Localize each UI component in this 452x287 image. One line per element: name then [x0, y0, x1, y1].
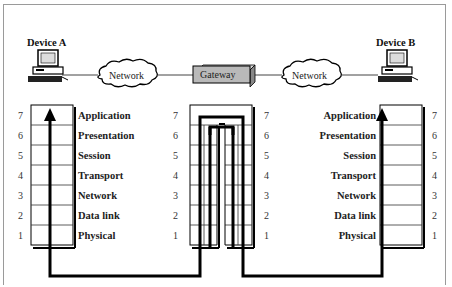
- left-layer-num-2: 2: [18, 210, 23, 221]
- left-layer-name-transport: Transport: [78, 170, 124, 181]
- right-layer-num-4: 4: [432, 170, 437, 181]
- gw-right-num-3: 3: [264, 190, 269, 201]
- right-layer-name-application: Application: [323, 110, 376, 121]
- device-b-label: Device B: [376, 37, 415, 48]
- gw-left-num-5: 5: [173, 150, 178, 161]
- right-layer-num-7: 7: [432, 110, 437, 121]
- device-a-label: Device A: [27, 37, 67, 48]
- right-layer-num-5: 5: [432, 150, 437, 161]
- left-layer-num-7: 7: [18, 110, 23, 121]
- left-layer-name-network: Network: [78, 190, 117, 201]
- gw-right-num-1: 1: [264, 230, 269, 241]
- right-layer-name-physical: Physical: [339, 230, 376, 241]
- gw-left-num-4: 4: [173, 170, 178, 181]
- network-left-label: Network: [109, 70, 144, 81]
- gw-left-num-2: 2: [173, 210, 178, 221]
- left-layer-num-1: 1: [18, 230, 23, 241]
- left-layer-num-5: 5: [18, 150, 23, 161]
- left-layer-name-physical: Physical: [78, 230, 115, 241]
- right-layer-num-2: 2: [432, 210, 437, 221]
- gw-right-num-6: 6: [264, 130, 269, 141]
- left-layer-name-application: Application: [78, 110, 131, 121]
- gw-left-num-3: 3: [173, 190, 178, 201]
- gw-right-num-5: 5: [264, 150, 269, 161]
- left-layer-name-session: Session: [78, 150, 111, 161]
- right-layer-name-presentation: Presentation: [320, 130, 377, 141]
- gw-right-num-4: 4: [264, 170, 269, 181]
- right-layer-name-session: Session: [343, 150, 376, 161]
- left-layer-name-presentation: Presentation: [78, 130, 135, 141]
- gw-right-num-2: 2: [264, 210, 269, 221]
- gateway-label: Gateway: [200, 69, 236, 80]
- gw-left-num-7: 7: [173, 110, 178, 121]
- right-layer-num-3: 3: [432, 190, 437, 201]
- gw-left-num-1: 1: [173, 230, 178, 241]
- right-layer-num-1: 1: [432, 230, 437, 241]
- right-layer-name-transport: Transport: [331, 170, 377, 181]
- gw-right-num-7: 7: [264, 110, 269, 121]
- left-layer-num-3: 3: [18, 190, 23, 201]
- right-layer-name-data-link: Data link: [334, 210, 376, 221]
- network-right-label: Network: [292, 70, 327, 81]
- left-layer-name-data-link: Data link: [78, 210, 120, 221]
- left-layer-num-4: 4: [18, 170, 23, 181]
- right-layer-num-6: 6: [432, 130, 437, 141]
- right-layer-name-network: Network: [337, 190, 376, 201]
- gw-left-num-6: 6: [173, 130, 178, 141]
- left-layer-num-6: 6: [18, 130, 23, 141]
